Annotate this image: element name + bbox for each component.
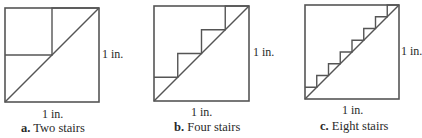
caption-letter-a: a.: [21, 121, 30, 135]
staircase-a: [5, 8, 99, 55]
bottom-label-a: 1 in.: [42, 107, 63, 122]
staircase-c: [305, 5, 399, 87]
caption-text-c: Eight stairs: [332, 119, 389, 133]
caption-letter-c: c.: [320, 119, 329, 133]
side-label-a: 1 in.: [102, 47, 123, 62]
bottom-label-b: 1 in.: [191, 105, 212, 120]
caption-b: b. Four stairs: [174, 120, 240, 135]
side-label-c: 1 in.: [401, 44, 422, 59]
caption-text-b: Four stairs: [187, 120, 240, 134]
bottom-label-c: 1 in.: [342, 103, 363, 118]
caption-text-a: Two stairs: [33, 121, 85, 135]
side-label-b: 1 in.: [253, 45, 274, 60]
caption-a: a. Two stairs: [21, 121, 85, 136]
staircase-b: [154, 6, 249, 77]
caption-c: c. Eight stairs: [320, 119, 388, 134]
caption-letter-b: b.: [174, 120, 184, 134]
